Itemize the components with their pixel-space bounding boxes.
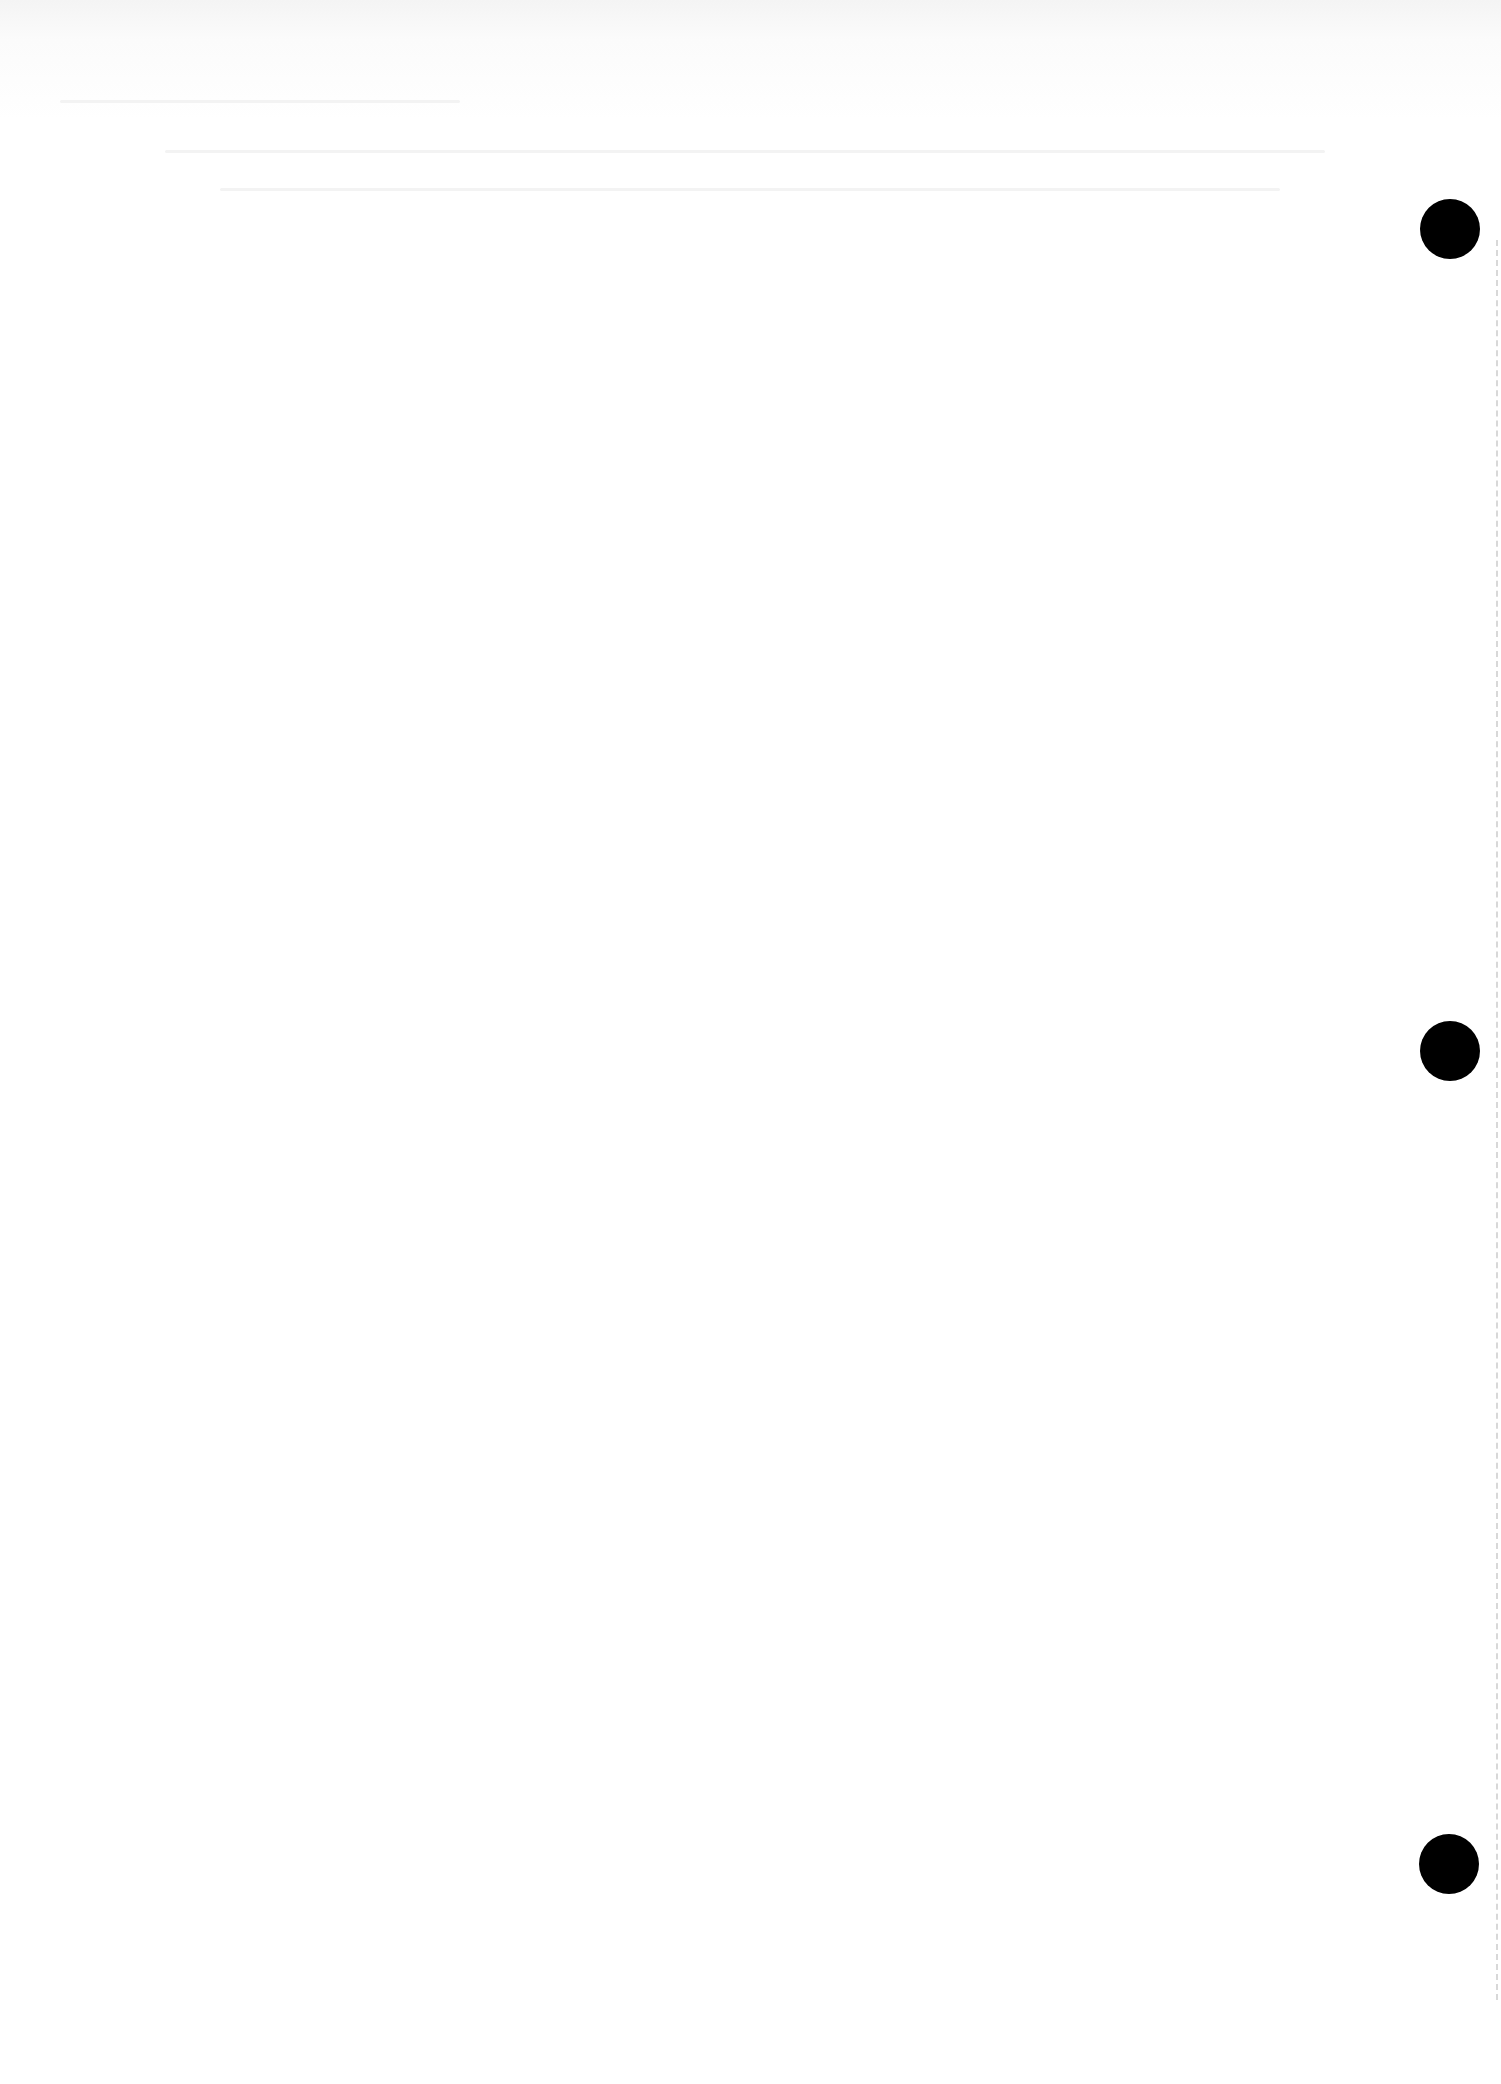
page-edge-line: [1496, 240, 1498, 2000]
bleed-through-mark: [220, 188, 1280, 191]
punch-hole-top: [1420, 199, 1480, 259]
bleed-through-mark: [165, 150, 1325, 153]
punch-hole-bottom: [1419, 1834, 1479, 1894]
scanned-page: [0, 0, 1501, 2084]
bleed-through-mark: [60, 100, 460, 103]
punch-hole-middle: [1420, 1021, 1480, 1081]
